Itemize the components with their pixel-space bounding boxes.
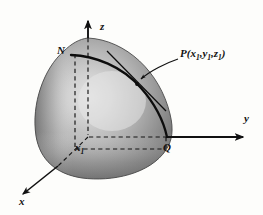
- sphere-octant-diagram: [0, 0, 263, 215]
- p-close-paren: ): [222, 47, 226, 59]
- point-p-marker: [135, 82, 139, 86]
- x-axis-label: x: [19, 196, 25, 207]
- point-q-label: Q: [163, 142, 171, 153]
- z-axis-label: z: [100, 21, 104, 32]
- sphere-octant-solid: [30, 30, 180, 187]
- point-n-label: N: [57, 45, 65, 56]
- y-axis-label: y: [244, 113, 249, 124]
- point-markers: [135, 82, 139, 86]
- x-axis-line: [23, 166, 58, 194]
- figure-container: z y x N Q x1 P(x1,y1,z1): [0, 0, 263, 215]
- point-p-label: P(x1,y1,z1): [180, 48, 226, 62]
- x1-subscript: 1: [81, 147, 85, 156]
- x1-label: x1: [75, 142, 84, 156]
- p-name: P: [180, 47, 187, 59]
